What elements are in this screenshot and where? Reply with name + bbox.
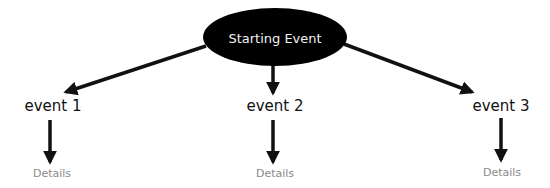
event-2-label: event 2 — [246, 97, 303, 115]
arrow-root-to-event-3 — [344, 44, 472, 92]
event-3-label: event 3 — [472, 97, 529, 115]
event-3-details: Details — [483, 166, 521, 179]
flow-diagram — [0, 0, 550, 188]
arrow-root-to-event-1 — [66, 46, 206, 92]
event-1-label: event 1 — [24, 97, 81, 115]
root-node-label: Starting Event — [228, 31, 321, 46]
event-1-details: Details — [33, 167, 71, 180]
event-2-details: Details — [256, 167, 294, 180]
